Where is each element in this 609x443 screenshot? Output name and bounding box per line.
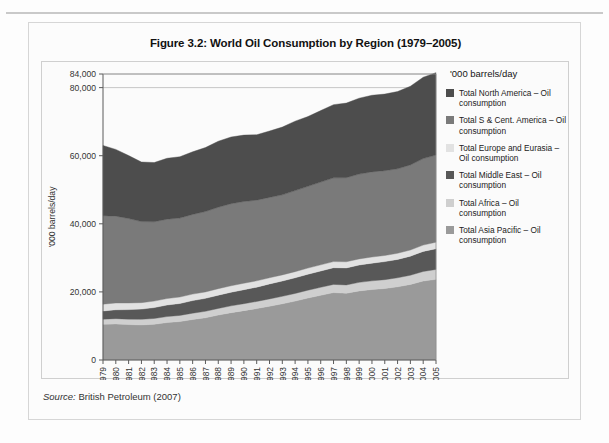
legend-item-label: Total Asia Pacific – Oil consumption xyxy=(459,225,568,245)
y-axis-tick-label: 80,000 xyxy=(70,83,97,93)
legend-swatch-icon xyxy=(446,89,454,97)
x-axis-tick-label: 2000 xyxy=(367,367,377,380)
figure-source: Source: British Petroleum (2007) xyxy=(43,391,181,402)
x-axis-tick-label: 1987 xyxy=(201,367,211,380)
page-top-rule xyxy=(6,12,603,14)
x-axis-tick-label: 2001 xyxy=(380,367,390,380)
x-axis-tick-label: 1982 xyxy=(137,367,147,380)
x-axis-tick-label: 1994 xyxy=(290,367,300,380)
legend-item[interactable]: Total Asia Pacific – Oil consumption xyxy=(446,225,568,245)
chart-legend: '000 barrels/day Total North America – O… xyxy=(446,68,568,252)
y-axis-tick-label: 84,000 xyxy=(70,69,97,79)
x-axis-tick-label: 1993 xyxy=(278,367,288,380)
x-axis-tick-label: 2004 xyxy=(418,367,428,380)
legend-swatch-icon xyxy=(446,226,454,234)
legend-item-label: Total S & Cent. America – Oil consumptio… xyxy=(459,115,568,135)
x-axis-tick-label: 2002 xyxy=(393,367,403,380)
source-value: British Petroleum (2007) xyxy=(76,391,181,402)
x-axis-tick-label: 1983 xyxy=(149,367,159,380)
legend-item[interactable]: Total North America – Oil consumption xyxy=(446,88,568,108)
source-keyword: Source: xyxy=(43,391,76,402)
legend-title: '000 barrels/day xyxy=(450,68,568,79)
x-axis-tick-label: 1990 xyxy=(239,367,249,380)
x-axis-tick-label: 1980 xyxy=(111,367,121,380)
y-axis-tick-label: 0 xyxy=(91,355,96,365)
y-axis-tick-label: 60,000 xyxy=(70,151,97,161)
x-axis-tick-label: 1984 xyxy=(162,367,172,380)
y-axis-tick-label: 20,000 xyxy=(70,287,97,297)
x-axis-tick-label: 1981 xyxy=(124,367,134,380)
legend-swatch-icon xyxy=(446,144,454,152)
x-axis-tick-label: 2005 xyxy=(431,367,441,380)
page-canvas: Figure 3.2: World Oil Consumption by Reg… xyxy=(0,0,609,443)
x-axis-tick-label: 1998 xyxy=(342,367,352,380)
legend-swatch-icon xyxy=(446,199,454,207)
legend-item[interactable]: Total S & Cent. America – Oil consumptio… xyxy=(446,115,568,135)
x-axis-tick-label: 1992 xyxy=(265,367,275,380)
x-axis-tick-label: 1989 xyxy=(226,367,236,380)
y-axis-title: '000 barrels/day xyxy=(47,186,57,248)
legend-item[interactable]: Total Africa – Oil consumption xyxy=(446,198,568,218)
legend-item[interactable]: Total Europe and Eurasia – Oil consumpti… xyxy=(446,143,568,163)
legend-item-label: Total Africa – Oil consumption xyxy=(459,198,568,218)
figure-title: Figure 3.2: World Oil Consumption by Reg… xyxy=(29,37,582,49)
y-axis-tick-label: 40,000 xyxy=(70,219,97,229)
chart-plot-frame: 020,00040,00060,00080,00084,000 19791980… xyxy=(41,61,569,379)
legend-swatch-icon xyxy=(446,116,454,124)
x-axis-tick-label: 1985 xyxy=(175,367,185,380)
x-axis-tick-label: 1997 xyxy=(329,367,339,380)
x-axis-ticks: 1979198019811982198319841985198619871988… xyxy=(98,360,441,380)
x-axis-tick-label: 1995 xyxy=(303,367,313,380)
legend-item-label: Total Middle East – Oil consumption xyxy=(459,170,568,190)
y-axis-title-label: '000 barrels/day xyxy=(47,186,57,248)
figure-container: Figure 3.2: World Oil Consumption by Reg… xyxy=(28,22,581,420)
y-axis-ticks: 020,00040,00060,00080,00084,000 xyxy=(70,69,103,365)
legend-item-label: Total Europe and Eurasia – Oil consumpti… xyxy=(459,143,568,163)
legend-items: Total North America – Oil consumptionTot… xyxy=(446,88,568,245)
x-axis-tick-label: 1986 xyxy=(188,367,198,380)
x-axis-tick-label: 1999 xyxy=(354,367,364,380)
legend-swatch-icon xyxy=(446,171,454,179)
legend-item-label: Total North America – Oil consumption xyxy=(459,88,568,108)
x-axis-tick-label: 1988 xyxy=(213,367,223,380)
x-axis-tick-label: 1979 xyxy=(98,367,108,380)
legend-item[interactable]: Total Middle East – Oil consumption xyxy=(446,170,568,190)
x-axis-tick-label: 1996 xyxy=(316,367,326,380)
x-axis-tick-label: 2003 xyxy=(406,367,416,380)
x-axis-tick-label: 1991 xyxy=(252,367,262,380)
